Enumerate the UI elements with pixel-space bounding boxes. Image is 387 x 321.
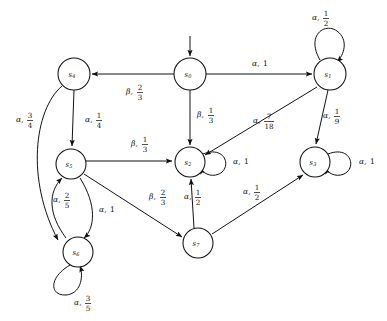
edge-symbol: α, xyxy=(312,13,320,22)
edge-label-s3-to-s3: α,1 xyxy=(359,157,375,166)
edge-probability-numerator: 3 xyxy=(86,294,91,303)
edge-probability-numerator: 1 xyxy=(196,188,201,197)
edge-label-s0-to-s2: β,13 xyxy=(196,106,214,125)
edge-symbol: α, xyxy=(74,298,82,307)
edge-probability-denominator: 5 xyxy=(65,201,70,210)
state-sub-s4: 4 xyxy=(71,73,75,79)
edge-probability-denominator: 3 xyxy=(209,116,214,125)
edge-label-s0-to-s1: α,1 xyxy=(252,59,268,68)
edge-probability-denominator: 9 xyxy=(335,117,340,126)
edge-label-s5-to-s6: α,1 xyxy=(99,205,115,214)
edge-label-s4-to-s6: α,34 xyxy=(16,111,33,130)
edge-probability-numerator: 2 xyxy=(161,188,166,197)
edge-probability-numerator: 1 xyxy=(143,135,148,144)
edge-probability-denominator: 18 xyxy=(264,122,274,131)
edge-probability: 1 xyxy=(263,59,268,68)
edge-probability-numerator: 1 xyxy=(97,111,102,120)
edge-label-s6-to-s6: α,35 xyxy=(74,294,91,313)
edge-probability-denominator: 2 xyxy=(324,19,329,28)
edge-s7-to-s2 xyxy=(191,179,194,228)
edge-symbol: β, xyxy=(125,87,133,96)
edge-symbol: α, xyxy=(252,59,260,68)
edge-label-s4-to-s5: α,14 xyxy=(85,111,102,130)
edge-label-s2-to-s2: α,1 xyxy=(233,157,249,166)
state-node-s3[interactable]: s3 xyxy=(300,147,330,177)
edge-s1-to-s2 xyxy=(205,87,317,155)
edge-s6-self-loop xyxy=(54,265,82,295)
edge-label-s1-to-s1: α,12 xyxy=(312,9,329,28)
edge-probability-numerator: 3 xyxy=(28,111,33,120)
state-sub-s2: 2 xyxy=(187,161,191,167)
nodes-layer: s0 s1 s2 s3 xyxy=(56,58,346,267)
edge-probability-denominator: 4 xyxy=(28,121,33,130)
state-sub-s3: 3 xyxy=(313,161,316,167)
state-diagram: s0 s1 s2 s3 xyxy=(0,0,387,321)
edge-label-s7-to-s3: α,12 xyxy=(243,183,260,202)
edge-symbol: α, xyxy=(85,115,93,124)
diagram-canvas: s0 s1 s2 s3 xyxy=(0,0,387,321)
edge-probability-numerator: 2 xyxy=(65,191,70,200)
edge-label-s6-to-s5: α,25 xyxy=(53,191,70,210)
edge-probability: 1 xyxy=(110,205,115,214)
state-sub-s1: 1 xyxy=(328,73,331,79)
edge-probability-denominator: 2 xyxy=(196,198,201,207)
edge-probability: 1 xyxy=(370,157,375,166)
state-node-s0[interactable]: s0 xyxy=(174,58,206,90)
edge-symbol: α, xyxy=(233,157,241,166)
edge-label-s1-to-s2: α,718 xyxy=(253,112,274,131)
edge-symbol: α, xyxy=(323,111,331,120)
edge-symbol: α, xyxy=(184,192,192,201)
edge-label-s0-to-s4: β,23 xyxy=(125,83,143,102)
edge-label-s5-to-s2: β,13 xyxy=(130,135,148,154)
edge-probability: 1 xyxy=(244,157,249,166)
edge-s5-to-s6 xyxy=(80,178,93,238)
edge-probability-denominator: 4 xyxy=(97,121,102,130)
edge-symbol: α, xyxy=(243,187,251,196)
edge-s4-to-s5 xyxy=(72,90,74,146)
state-node-s6[interactable]: s6 xyxy=(63,237,93,267)
state-node-s4[interactable]: s4 xyxy=(58,58,90,90)
edge-symbol: α, xyxy=(99,205,107,214)
edge-probability-numerator: 2 xyxy=(138,83,143,92)
edge-probability-numerator: 1 xyxy=(255,183,260,192)
edge-probability-denominator: 3 xyxy=(143,145,148,154)
edge-label-s5-to-s7: β,23 xyxy=(148,188,166,207)
state-node-s1[interactable]: s1 xyxy=(314,58,346,90)
edge-symbol: β, xyxy=(196,110,204,119)
state-sub-s5: 5 xyxy=(69,163,72,169)
edge-probability-denominator: 5 xyxy=(86,304,91,313)
state-node-s2[interactable]: s2 xyxy=(175,147,205,177)
edge-label-s1-to-s3: α,19 xyxy=(323,107,340,126)
edge-symbol: α, xyxy=(253,116,261,125)
edge-symbol: α, xyxy=(53,195,61,204)
edge-probability-numerator: 7 xyxy=(267,112,272,121)
edge-symbol: α, xyxy=(16,115,24,124)
edge-probability-denominator: 3 xyxy=(138,93,143,102)
edge-s1-self-loop xyxy=(315,28,344,62)
edge-probability-numerator: 1 xyxy=(209,106,214,115)
state-node-s5[interactable]: s5 xyxy=(56,149,86,179)
edge-probability-denominator: 2 xyxy=(255,193,260,202)
state-node-s7[interactable]: s7 xyxy=(183,228,213,258)
edge-symbol: β, xyxy=(130,139,138,148)
edge-symbol: α, xyxy=(359,157,367,166)
edge-symbol: β, xyxy=(148,192,156,201)
edge-probability-numerator: 1 xyxy=(335,107,340,116)
edge-probability-denominator: 3 xyxy=(161,198,166,207)
edge-probability-numerator: 1 xyxy=(324,9,329,18)
